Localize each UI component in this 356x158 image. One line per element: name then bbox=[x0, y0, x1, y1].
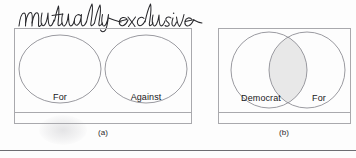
set-label-democrat: Democrat bbox=[241, 93, 281, 103]
caption-a: (a) bbox=[98, 128, 108, 137]
venn-diagram-overlapping bbox=[219, 29, 350, 123]
set-label-for: For bbox=[53, 92, 67, 102]
figure-canvas: For Against (a) Democrat For (b) bbox=[0, 0, 356, 158]
panel-b: Democrat For bbox=[218, 28, 351, 124]
set-label-for: For bbox=[312, 93, 326, 103]
set-label-against: Against bbox=[131, 92, 162, 102]
bottom-rule bbox=[0, 150, 356, 151]
caption-b: (b) bbox=[279, 128, 289, 137]
handwritten-annotation bbox=[16, 0, 216, 31]
panel-a: For Against bbox=[14, 28, 192, 124]
venn-diagram-disjoint bbox=[15, 29, 191, 123]
